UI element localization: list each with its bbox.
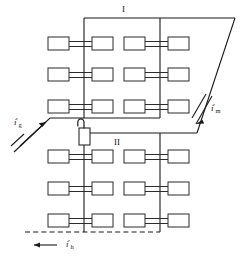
unit-r2-left[interactable] <box>48 68 113 81</box>
valve-hook-icon <box>78 119 84 128</box>
unit-r2-right[interactable] <box>124 68 189 81</box>
unit-r4-right[interactable] <box>124 150 189 163</box>
unit-r6-right[interactable] <box>124 214 189 227</box>
zone-two-label: II <box>114 138 120 147</box>
flow-return-right-subscript: m <box>215 107 220 114</box>
flow-supply-left-subscript: g <box>18 121 21 128</box>
unit-r5-left[interactable] <box>48 182 113 195</box>
flow-return-right-label: i′m <box>211 104 221 113</box>
unit-r4-left[interactable] <box>48 150 113 163</box>
flow-supply-left-label: i′g <box>14 118 22 127</box>
unit-r3-left[interactable] <box>48 100 113 113</box>
unit-r6-left[interactable] <box>48 214 113 227</box>
unit-r5-right[interactable] <box>124 182 189 195</box>
control-valve-body[interactable] <box>79 128 90 145</box>
unit-r3-right[interactable] <box>124 100 189 113</box>
zone-one-label: I <box>122 5 125 14</box>
flow-arrow-bottom-icon <box>34 243 57 248</box>
piping-diagram: I II i′g i′m i′h <box>0 0 249 258</box>
control-valve-group[interactable] <box>78 119 90 145</box>
slanted-return-pipe <box>197 18 235 133</box>
flow-bottom-label: i′h <box>66 240 74 249</box>
flow-bottom-subscript: h <box>70 243 73 250</box>
diagram-canvas <box>0 0 249 258</box>
unit-r1-right[interactable] <box>124 37 189 50</box>
unit-r1-left[interactable] <box>48 37 113 50</box>
bottom-return-group <box>25 232 160 247</box>
